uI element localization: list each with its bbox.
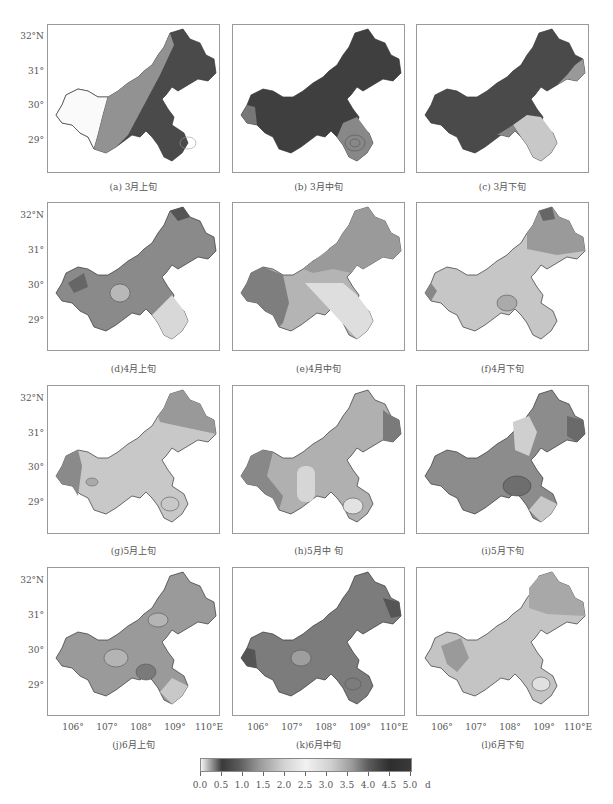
x-tick-108: 108° bbox=[311, 722, 341, 732]
x-tick-107: 107° bbox=[461, 722, 491, 732]
caption-k: (k)6月中旬 bbox=[232, 738, 405, 751]
colorbar bbox=[200, 758, 412, 772]
y-tick-32: 32°N bbox=[4, 393, 44, 403]
x-tick-109: 109° bbox=[345, 722, 375, 732]
x-tick-110: 110°E bbox=[379, 722, 409, 732]
colorbar-tick bbox=[263, 772, 264, 776]
map-panel-e bbox=[232, 202, 405, 351]
x-tick-110: 110°E bbox=[194, 722, 224, 732]
contour-map-i bbox=[417, 386, 588, 533]
contour-map-d bbox=[48, 203, 219, 350]
caption-d: (d)4月上旬 bbox=[47, 362, 220, 375]
y-tick-32: 32°N bbox=[4, 575, 44, 585]
x-tick-110: 110°E bbox=[563, 722, 593, 732]
contour-map-f bbox=[417, 203, 588, 350]
caption-g: (g)5月上旬 bbox=[47, 544, 220, 557]
caption-a: (a) 3月上旬 bbox=[47, 180, 220, 193]
contour-map-k bbox=[233, 568, 404, 715]
y-tick-32: 32°N bbox=[4, 210, 44, 220]
contour-map-j bbox=[48, 568, 219, 715]
colorbar-tick bbox=[389, 772, 390, 776]
caption-h: (h)5月中 旬 bbox=[232, 544, 405, 557]
caption-i: (i)5月下旬 bbox=[416, 544, 589, 557]
map-panel-c bbox=[416, 24, 589, 173]
caption-l: (l)6月下旬 bbox=[416, 738, 589, 751]
contour-map-b bbox=[233, 25, 404, 172]
y-tick-31: 31° bbox=[4, 66, 44, 76]
x-tick-106: 106° bbox=[243, 722, 273, 732]
y-tick-29: 29° bbox=[4, 680, 44, 690]
contour-map-g bbox=[48, 386, 219, 533]
x-tick-106: 106° bbox=[427, 722, 457, 732]
map-panel-i bbox=[416, 385, 589, 534]
x-tick-107: 107° bbox=[277, 722, 307, 732]
colorbar-tick bbox=[368, 772, 369, 776]
map-panel-f bbox=[416, 202, 589, 351]
contour-map-e bbox=[233, 203, 404, 350]
y-tick-30: 30° bbox=[4, 645, 44, 655]
map-panel-l bbox=[416, 567, 589, 716]
x-tick-108: 108° bbox=[126, 722, 156, 732]
colorbar-unit: d bbox=[425, 780, 431, 790]
colorbar-tick bbox=[242, 772, 243, 776]
colorbar-tick bbox=[326, 772, 327, 776]
map-panel-b bbox=[232, 24, 405, 173]
y-tick-32: 32°N bbox=[4, 31, 44, 41]
y-tick-30: 30° bbox=[4, 280, 44, 290]
caption-c: (c) 3月下旬 bbox=[416, 180, 589, 193]
y-tick-29: 29° bbox=[4, 497, 44, 507]
y-tick-31: 31° bbox=[4, 610, 44, 620]
contour-map-l bbox=[417, 568, 588, 715]
map-panel-g bbox=[47, 385, 220, 534]
map-panel-a bbox=[47, 24, 220, 173]
x-tick-108: 108° bbox=[495, 722, 525, 732]
y-tick-30: 30° bbox=[4, 462, 44, 472]
map-panel-d bbox=[47, 202, 220, 351]
colorbar-label: 5.0 bbox=[395, 780, 425, 790]
x-tick-109: 109° bbox=[529, 722, 559, 732]
caption-b: (b) 3月中旬 bbox=[232, 180, 405, 193]
colorbar-tick bbox=[284, 772, 285, 776]
colorbar-tick bbox=[221, 772, 222, 776]
contour-map-a bbox=[48, 25, 219, 172]
x-tick-107: 107° bbox=[92, 722, 122, 732]
contour-map-h bbox=[233, 386, 404, 533]
colorbar-tick bbox=[347, 772, 348, 776]
colorbar-tick bbox=[200, 772, 201, 776]
y-tick-31: 31° bbox=[4, 428, 44, 438]
x-tick-109: 109° bbox=[160, 722, 190, 732]
y-tick-31: 31° bbox=[4, 245, 44, 255]
caption-f: (f)4月下旬 bbox=[416, 362, 589, 375]
map-panel-j bbox=[47, 567, 220, 716]
caption-j: (j)6月上旬 bbox=[47, 738, 220, 751]
y-tick-30: 30° bbox=[4, 100, 44, 110]
map-panel-h bbox=[232, 385, 405, 534]
y-tick-29: 29° bbox=[4, 135, 44, 145]
contour-map-c bbox=[417, 25, 588, 172]
y-tick-29: 29° bbox=[4, 315, 44, 325]
map-panel-k bbox=[232, 567, 405, 716]
caption-e: (e)4月中旬 bbox=[232, 362, 405, 375]
colorbar-tick bbox=[305, 772, 306, 776]
x-tick-106: 106° bbox=[58, 722, 88, 732]
colorbar-tick bbox=[410, 772, 411, 776]
